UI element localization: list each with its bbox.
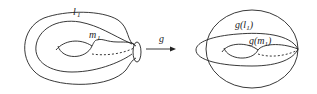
arrow-head-icon (170, 47, 176, 52)
label-m1: m (89, 29, 96, 40)
diagram-canvas: l 1 m 1 g g(l1) g(m1) (0, 0, 317, 94)
right-hole-bottom (224, 48, 258, 58)
label-m1-sub: 1 (97, 34, 101, 42)
left-hole-bottom (58, 46, 92, 57)
label-l1: l (73, 6, 76, 17)
map-arrow: g (146, 33, 176, 52)
right-torus (196, 10, 298, 88)
hidden-curve-right (258, 50, 298, 56)
left-torus-outer (25, 12, 136, 84)
left-torus (25, 12, 141, 84)
curve-m1 (97, 39, 134, 44)
curve-g-l1 (196, 33, 298, 66)
label-l1-sub: 1 (77, 11, 81, 19)
label-g-m1: g(m1) (249, 35, 272, 48)
hidden-curve-left (92, 48, 134, 55)
curve-l1 (36, 21, 132, 72)
arrow-label-g: g (159, 33, 164, 44)
label-g-l1: g(l1) (235, 19, 254, 32)
left-hole-top (56, 41, 92, 50)
tube-end (133, 42, 141, 62)
